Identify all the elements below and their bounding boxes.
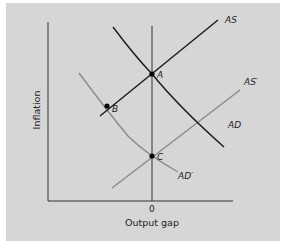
x-tick-zero: 0: [149, 204, 155, 214]
as-prime-label: AS′: [243, 77, 258, 87]
ad-curve: [113, 27, 224, 147]
point-a: [149, 71, 154, 76]
ad-prime-label: AD′: [177, 171, 193, 181]
y-axis-label: Inflation: [31, 91, 42, 130]
point-c: [149, 153, 154, 158]
point-c-label: C: [157, 152, 164, 162]
as-ad-diagram: A B C AS AD AS′ AD′ 0 Output gap Inflati…: [0, 0, 289, 247]
ad-label: AD: [227, 120, 241, 130]
point-b: [104, 103, 109, 108]
x-axis-label: Output gap: [125, 217, 179, 228]
point-a-label: A: [156, 70, 163, 80]
as-curve: [100, 20, 218, 116]
as-label: AS: [224, 15, 237, 25]
point-b-label: B: [112, 104, 118, 114]
